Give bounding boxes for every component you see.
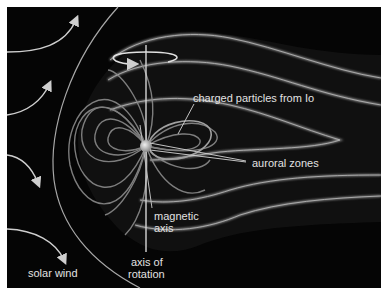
- label-solar-wind: solar wind: [28, 267, 78, 279]
- label-axis-rotation-2: rotation: [128, 268, 165, 280]
- solar-wind-arrow-2: [7, 85, 49, 115]
- label-charged-particles: charged particles from Io: [193, 92, 314, 104]
- solar-wind-arrows: [7, 20, 76, 260]
- label-magnetic-axis-1: magnetic: [154, 210, 199, 222]
- label-auroral-zones: auroral zones: [252, 157, 319, 169]
- label-axis-rotation-1: axis of: [131, 256, 163, 268]
- solar-wind-arrow-1: [7, 20, 76, 52]
- solar-wind-arrow-4: [7, 229, 64, 260]
- label-magnetic-axis-2: axis: [154, 222, 174, 234]
- magnetosphere-diagram: [0, 0, 381, 292]
- solar-wind-arrow-3: [7, 155, 38, 183]
